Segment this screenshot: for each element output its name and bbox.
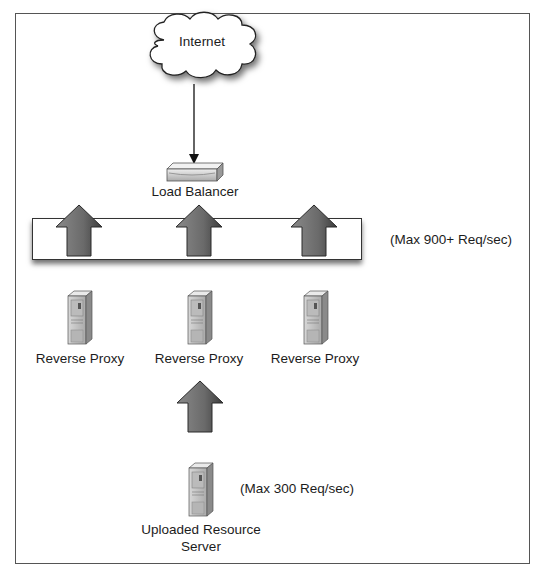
origin-label-line2: Server [126, 539, 276, 554]
origin-capacity-note: (Max 300 Req/sec) [240, 481, 354, 496]
load-balancer-icon [165, 162, 225, 184]
reverse-proxy-label: Reverse Proxy [25, 351, 135, 366]
block-arrow-up-icon [175, 204, 223, 258]
server-icon [186, 290, 214, 346]
block-arrow-up-icon [55, 204, 103, 258]
reverse-proxy-label: Reverse Proxy [144, 351, 254, 366]
load-balancer-label: Load Balancer [140, 184, 250, 199]
server-icon [187, 462, 215, 518]
server-icon [66, 290, 94, 346]
origin-label-line1: Uploaded Resource [126, 522, 276, 537]
block-arrow-up-icon [290, 204, 338, 258]
internet-to-load-balancer-arrow [188, 84, 200, 166]
proxy-tier-capacity-note: (Max 900+ Req/sec) [390, 232, 512, 247]
cloud-icon [142, 10, 266, 90]
internet-label: Internet [172, 34, 232, 49]
block-arrow-up-icon [176, 380, 224, 434]
server-icon [302, 290, 330, 346]
reverse-proxy-label: Reverse Proxy [260, 351, 370, 366]
